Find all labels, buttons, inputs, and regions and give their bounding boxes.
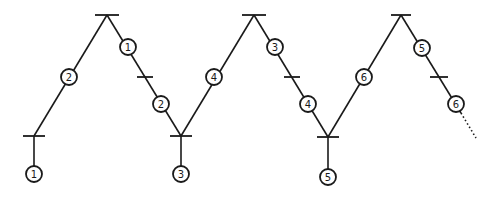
place-node: 6 [356, 69, 372, 85]
place-label: 3 [272, 42, 278, 53]
place-nodes: 121234345656 [26, 39, 464, 185]
place-label: 4 [305, 99, 311, 110]
arc-descend-1 [107, 15, 181, 136]
place-label: 4 [211, 72, 217, 83]
place-node: 1 [26, 166, 42, 182]
place-label: 2 [66, 72, 72, 83]
place-node: 5 [414, 40, 430, 56]
place-label: 1 [31, 169, 37, 180]
place-node: 2 [61, 69, 77, 85]
place-label: 2 [158, 99, 164, 110]
place-node: 4 [206, 69, 222, 85]
place-node: 3 [173, 166, 189, 182]
place-node: 3 [267, 39, 283, 55]
place-label: 5 [419, 43, 425, 54]
place-label: 6 [361, 72, 367, 83]
arcs [34, 15, 476, 169]
place-node: 4 [300, 96, 316, 112]
place-label: 3 [178, 169, 184, 180]
place-label: 1 [125, 42, 131, 53]
petri-net-diagram: 121234345656 [0, 0, 494, 200]
place-node: 6 [448, 96, 464, 112]
place-node: 2 [153, 96, 169, 112]
place-label: 6 [453, 99, 459, 110]
place-node: 5 [320, 169, 336, 185]
arc-descend-2 [254, 15, 328, 137]
place-label: 5 [325, 172, 331, 183]
place-node: 1 [120, 39, 136, 55]
transition-bars [23, 15, 448, 137]
arc-continuation-dotted [461, 113, 476, 138]
